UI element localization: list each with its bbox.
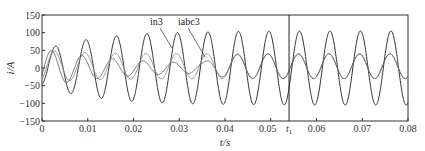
t1-label: t1	[286, 123, 293, 136]
x-tick-label: 0	[40, 123, 45, 134]
series-in3	[42, 31, 408, 105]
y-tick-label: 50	[30, 45, 40, 56]
y-tick-label: −50	[24, 80, 40, 91]
x-tick-label: 0.07	[354, 123, 372, 134]
x-tick-label: 0.03	[171, 123, 189, 134]
x-axis-label: t/s	[220, 136, 230, 148]
x-tick-label: 0.01	[79, 123, 97, 134]
y-tick-label: −100	[19, 98, 40, 109]
x-tick-label: 0.08	[399, 123, 417, 134]
annotation-in3: in3	[150, 16, 163, 27]
y-tick-label: −150	[19, 116, 40, 127]
leader-line-in3	[160, 28, 172, 48]
y-tick-label: 150	[25, 10, 40, 21]
leader-line-iabc3	[188, 28, 205, 57]
x-tick-label: 0.04	[216, 123, 234, 134]
y-tick-label: 0	[35, 63, 40, 74]
x-tick-label: 0.02	[125, 123, 143, 134]
x-tick-label: 0.05	[259, 123, 277, 134]
line-chart: 00.010.020.030.040.060.070.080.051501005…	[0, 0, 425, 151]
x-tick-label: 0.06	[308, 123, 326, 134]
y-tick-label: 100	[25, 27, 40, 38]
annotation-iabc3: iabc3	[178, 16, 200, 27]
y-axis-label: i/A	[4, 61, 16, 74]
